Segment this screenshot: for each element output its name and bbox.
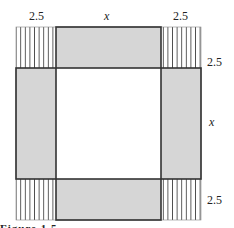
left-edge-rectangle xyxy=(16,68,56,179)
bottom-right-corner-square xyxy=(161,179,201,220)
label-top-left: 2.5 xyxy=(29,9,44,23)
bottom-left-corner-square xyxy=(16,179,56,220)
label-right-top: 2.5 xyxy=(207,55,222,69)
completing-square-diagram: 2.5 x 2.5 2.5 x 2.5 xyxy=(0,0,234,228)
label-top-middle: x xyxy=(103,9,110,23)
right-edge-rectangle xyxy=(161,68,201,179)
bottom-edge-rectangle xyxy=(56,179,161,220)
top-right-corner-square xyxy=(161,27,201,68)
top-left-corner-square xyxy=(16,27,56,68)
top-edge-rectangle xyxy=(56,27,161,68)
figure-caption-cutoff: Figure 1.5 ... xyxy=(0,222,234,228)
center-square xyxy=(56,68,161,179)
label-right-middle: x xyxy=(208,115,215,129)
label-right-bottom: 2.5 xyxy=(207,193,222,207)
label-top-right: 2.5 xyxy=(173,9,188,23)
